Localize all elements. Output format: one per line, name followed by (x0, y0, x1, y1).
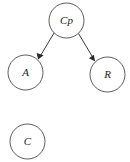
edge-cp-to-r (79, 34, 96, 62)
node-r[interactable]: R (90, 57, 125, 92)
graph-diagram: Cp A R C (0, 0, 130, 162)
arrowhead-icon-cp-a (37, 53, 44, 60)
edge-line-cp-a (40, 33, 54, 57)
node-label-r: R (103, 68, 111, 80)
node-label-cp: Cp (60, 14, 73, 26)
node-cp[interactable]: Cp (49, 3, 84, 38)
node-label-a: A (21, 66, 29, 78)
edge-cp-to-a (37, 33, 54, 60)
node-label-c: C (24, 135, 32, 147)
node-a[interactable]: A (8, 55, 43, 90)
node-c[interactable]: C (10, 124, 45, 159)
diagram-canvas: Cp A R C (0, 0, 130, 162)
edge-line-cp-r (79, 34, 94, 59)
